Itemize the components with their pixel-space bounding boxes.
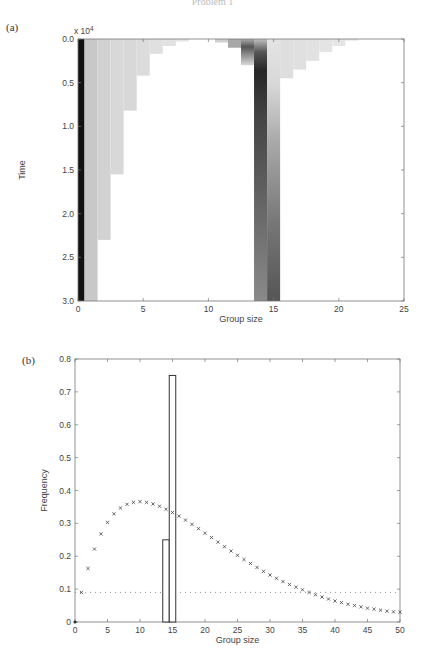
- x-marker: [379, 609, 382, 612]
- x-marker: [132, 501, 135, 504]
- x-marker: [86, 567, 89, 570]
- y-tick-label: 0: [66, 617, 71, 627]
- frequency-bar: [163, 540, 170, 622]
- x-marker: [359, 605, 362, 608]
- x-tick-label: 40: [330, 625, 340, 635]
- x-marker: [294, 586, 297, 589]
- x-marker: [99, 532, 102, 535]
- x-marker: [93, 547, 96, 550]
- x-marker: [216, 541, 219, 544]
- x-marker: [203, 532, 206, 535]
- x-marker: [314, 593, 317, 596]
- y-tick-label: 0.6: [59, 420, 71, 430]
- x-marker: [346, 603, 349, 606]
- x-marker: [106, 521, 109, 524]
- x-axis-title: Group size: [216, 635, 260, 645]
- x-marker: [145, 501, 148, 504]
- x-marker: [164, 508, 167, 511]
- chart-b-scatter: 0510152025303540455000.10.20.30.40.50.60…: [0, 0, 425, 666]
- x-marker: [288, 583, 291, 586]
- x-tick-label: 35: [298, 625, 308, 635]
- x-marker: [177, 515, 180, 518]
- x-marker: [125, 503, 128, 506]
- x-marker: [353, 604, 356, 607]
- x-marker: [119, 506, 122, 509]
- x-tick-label: 10: [135, 625, 145, 635]
- x-marker: [268, 573, 271, 576]
- y-axis-title: Frequency: [39, 469, 49, 512]
- x-tick-label: 0: [73, 625, 78, 635]
- x-tick-label: 45: [363, 625, 373, 635]
- x-marker: [275, 577, 278, 580]
- origin-point: [73, 620, 76, 623]
- x-marker: [385, 610, 388, 613]
- x-marker: [340, 601, 343, 604]
- x-marker: [242, 558, 245, 561]
- x-marker: [281, 580, 284, 583]
- x-marker: [327, 597, 330, 600]
- x-marker: [366, 607, 369, 610]
- scatter-markers: [80, 500, 402, 614]
- x-marker: [184, 518, 187, 521]
- x-marker: [190, 523, 193, 526]
- x-tick-label: 25: [233, 625, 243, 635]
- x-marker: [255, 566, 258, 569]
- frequency-bar: [169, 375, 176, 622]
- x-marker: [138, 500, 141, 503]
- x-marker: [210, 536, 213, 539]
- x-marker: [151, 502, 154, 505]
- x-tick-label: 15: [168, 625, 178, 635]
- y-tick-label: 0.2: [59, 551, 71, 561]
- x-marker: [112, 512, 115, 515]
- x-marker: [262, 570, 265, 573]
- x-marker: [158, 505, 161, 508]
- y-tick-label: 0.3: [59, 518, 71, 528]
- y-tick-label: 0.8: [59, 354, 71, 364]
- x-marker: [320, 595, 323, 598]
- plot-frame: [75, 359, 400, 622]
- x-marker: [249, 562, 252, 565]
- x-marker: [223, 545, 226, 548]
- x-tick-label: 30: [265, 625, 275, 635]
- x-marker: [301, 588, 304, 591]
- y-tick-label: 0.4: [59, 486, 71, 496]
- x-tick-label: 50: [395, 625, 405, 635]
- y-tick-label: 0.1: [59, 584, 71, 594]
- x-marker: [392, 610, 395, 613]
- x-marker: [333, 599, 336, 602]
- y-tick-label: 0.7: [59, 387, 71, 397]
- y-tick-label: 0.5: [59, 453, 71, 463]
- x-marker: [236, 554, 239, 557]
- x-marker: [229, 549, 232, 552]
- x-tick-label: 20: [200, 625, 210, 635]
- x-marker: [372, 608, 375, 611]
- x-marker: [197, 527, 200, 530]
- x-tick-label: 5: [105, 625, 110, 635]
